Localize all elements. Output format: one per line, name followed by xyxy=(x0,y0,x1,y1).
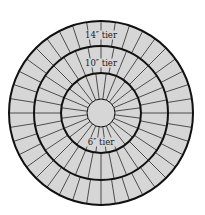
tier-label-14-inch: 14″ tier xyxy=(85,30,118,40)
tier-label-6-inch: 6″ tier xyxy=(88,137,115,147)
tier-label-10-inch: 10″ tier xyxy=(85,58,118,68)
tiered-cake-diagram: 6″ tier 10″ tier 14″ tier xyxy=(0,0,205,215)
